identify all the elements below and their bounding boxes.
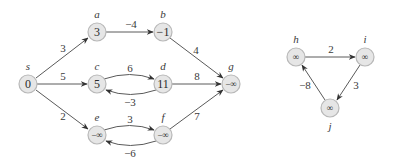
- node-a: 3 a: [88, 8, 106, 41]
- node-i-value: ∞: [362, 52, 368, 62]
- weight-h-i: 2: [328, 43, 334, 55]
- node-d: 11 d: [154, 60, 172, 93]
- node-h-label: h: [293, 33, 299, 45]
- node-g-value: −∞: [225, 79, 237, 89]
- weight-a-b: −4: [125, 18, 137, 30]
- node-i: ∞ i: [356, 33, 374, 66]
- node-d-value: 11: [157, 77, 169, 91]
- weight-j-h: −8: [299, 79, 311, 91]
- node-h: ∞ h: [287, 33, 305, 66]
- weight-f-e: −6: [124, 147, 136, 159]
- node-e-value: −∞: [91, 130, 103, 140]
- node-a-label: a: [94, 8, 100, 20]
- node-j-value: ∞: [327, 103, 333, 113]
- node-s-value: 0: [25, 77, 31, 91]
- node-c-value: 5: [94, 77, 100, 91]
- weight-i-j: 3: [353, 79, 359, 91]
- node-j-label: j: [326, 120, 331, 132]
- node-f: −∞ f: [154, 111, 172, 144]
- weight-b-g: 4: [193, 44, 199, 56]
- weight-s-e: 2: [60, 110, 66, 122]
- weight-f-g: 7: [194, 110, 200, 122]
- node-g: −∞ g: [222, 60, 240, 93]
- node-b-value: −1: [157, 25, 170, 39]
- edge-d-c: [106, 90, 156, 95]
- node-f-value: −∞: [157, 130, 169, 140]
- node-c: 5 c: [88, 60, 106, 93]
- node-c-label: c: [95, 60, 100, 72]
- weight-d-c: −3: [124, 96, 136, 108]
- graph-canvas: 3 5 2 −4 4 6 −3 8 3 −6 7 2 3 −8 0 s 3 a …: [0, 0, 394, 161]
- weight-c-d: 6: [127, 62, 133, 74]
- node-s: 0 s: [19, 60, 37, 93]
- node-e: −∞ e: [88, 111, 106, 144]
- weight-s-c: 5: [60, 70, 66, 82]
- edge-f-e: [106, 141, 156, 146]
- node-b: −1 b: [154, 8, 172, 41]
- node-h-value: ∞: [293, 52, 299, 62]
- node-a-value: 3: [94, 25, 100, 39]
- node-j: ∞ j: [321, 99, 339, 132]
- edge-e-f: [104, 126, 154, 131]
- node-f-label: f: [161, 111, 166, 123]
- node-e-label: e: [95, 111, 100, 123]
- node-d-label: d: [160, 60, 166, 72]
- weight-s-a: 3: [60, 42, 66, 54]
- edge-c-d: [104, 75, 154, 80]
- weight-e-f: 3: [127, 113, 133, 125]
- node-g-label: g: [228, 60, 234, 72]
- node-s-label: s: [26, 60, 30, 72]
- weight-d-g: 8: [194, 70, 200, 82]
- node-i-label: i: [363, 33, 366, 45]
- node-b-label: b: [160, 8, 166, 20]
